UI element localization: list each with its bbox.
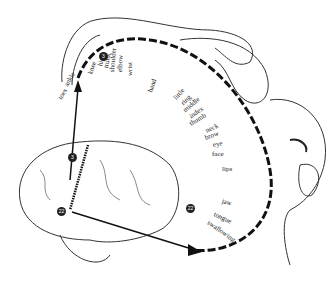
label-elbow: elbow [116, 55, 125, 72]
diagram-drawing [0, 0, 333, 283]
homunculus-diagram: toes ankle knee hip trunk shoulder elbow… [0, 0, 333, 283]
label-lips: lips [222, 165, 232, 173]
label-eye: eye [212, 139, 223, 149]
badge-22-arc: 22 [186, 204, 195, 213]
badge-3-brain: 3 [68, 153, 77, 162]
badge-3-arc: 3 [99, 52, 108, 61]
label-face: face [212, 150, 224, 158]
badge-22-brain: 22 [57, 207, 66, 216]
label-wrist: wrist [126, 62, 134, 76]
